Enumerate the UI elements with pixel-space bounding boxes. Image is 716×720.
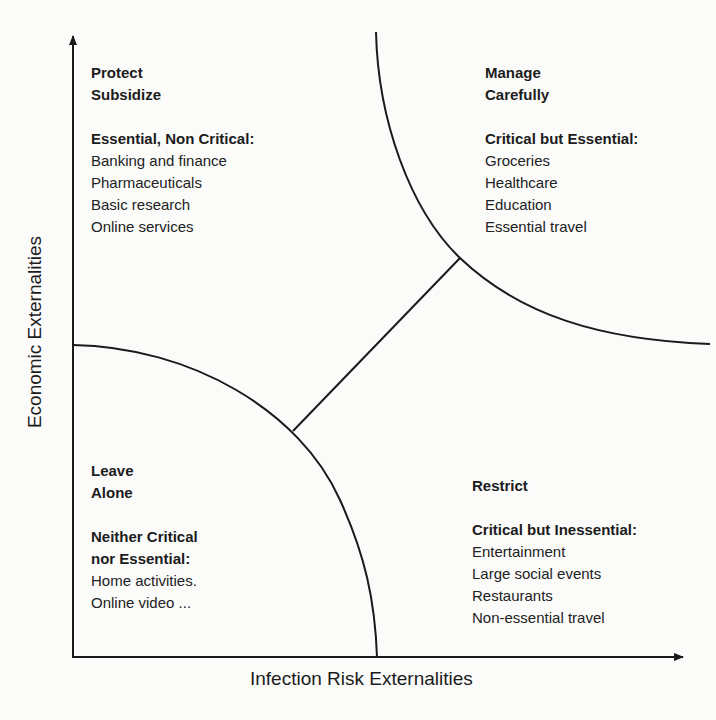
quadrant-title: Manage [485,62,638,84]
list-item: Banking and finance [91,150,254,172]
quadrant-title: Leave [91,460,198,482]
list-item: Online services [91,216,254,238]
list-item: Non-essential travel [472,607,637,629]
list-item: Home activities. [91,570,198,592]
list-item: Basic research [91,194,254,216]
list-item: Essential travel [485,216,638,238]
list-item: Restaurants [472,585,637,607]
list-item: Large social events [472,563,637,585]
quadrant-heading: Neither Critical [91,526,198,548]
quadrant-title: Alone [91,482,198,504]
x-axis-label: Infection Risk Externalities [250,668,473,690]
list-item: Education [485,194,638,216]
list-item: Pharmaceuticals [91,172,254,194]
connector-line [293,258,460,431]
quadrant-title: Subsidize [91,84,254,106]
quadrant-heading: nor Essential: [91,548,198,570]
quadrant-heading: Essential, Non Critical: [91,128,254,150]
quadrant-title: Protect [91,62,254,84]
list-item: Groceries [485,150,638,172]
quadrant-top-left: Protect Subsidize Essential, Non Critica… [91,62,254,238]
quadrant-title: Restrict [472,475,637,497]
quadrant-bottom-left: Leave Alone Neither Critical nor Essenti… [91,460,198,614]
quadrant-bottom-right: Restrict Critical but Inessential: Enter… [472,475,637,629]
list-item: Entertainment [472,541,637,563]
quadrant-top-right: Manage Carefully Critical but Essential:… [485,62,638,238]
list-item: Online video ... [91,592,198,614]
quadrant-heading: Critical but Inessential: [472,519,637,541]
quadrant-title: Carefully [485,84,638,106]
list-item: Healthcare [485,172,638,194]
quadrant-heading: Critical but Essential: [485,128,638,150]
y-axis-label: Economic Externalities [24,236,46,428]
